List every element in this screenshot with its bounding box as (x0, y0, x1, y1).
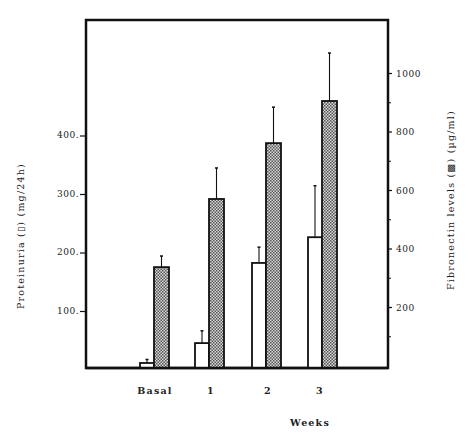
right-tick-label: 200 (396, 303, 415, 313)
fibronectin-bar-3 (322, 101, 337, 368)
right-axis-title: Fibronectin levels (▩) (µg/ml) (445, 110, 456, 290)
bar-chart: 100.200.300.400. 2004006008001000 Basal1… (0, 0, 474, 442)
category-label: 1 (207, 385, 215, 396)
fibronectin-bar-2 (266, 143, 281, 368)
proteinuria-bar-2 (252, 263, 266, 368)
x-axis-title: Weeks (289, 417, 330, 428)
right-tick-label: 600 (396, 186, 415, 196)
left-tick-label: 300. (57, 189, 79, 199)
left-tick-label: 200. (57, 247, 79, 257)
proteinuria-bar-3 (308, 237, 322, 368)
proteinuria-bar-1 (195, 343, 209, 368)
plot-frame (86, 20, 388, 368)
x-axis-categories: Basal123 (137, 385, 324, 396)
left-axis-title: Proteinuria (▯) (mg/24h) (15, 163, 26, 309)
fibronectin-bar-1 (209, 199, 224, 368)
left-y-axis: 100.200.300.400. (57, 130, 86, 316)
right-tick-label: 400 (396, 244, 415, 254)
left-tick-label: 400. (57, 130, 79, 140)
category-label: 3 (316, 385, 324, 396)
plot-frame-rect (86, 20, 388, 368)
left-tick-label: 100. (57, 306, 79, 316)
bars-group (86, 53, 388, 368)
right-tick-label: 800 (396, 127, 415, 137)
category-label: 2 (264, 385, 272, 396)
right-tick-label: 1000 (396, 69, 421, 79)
category-label: Basal (137, 385, 172, 396)
fibronectin-bar-basal (154, 267, 169, 368)
right-y-axis: 2004006008001000 (388, 69, 421, 337)
